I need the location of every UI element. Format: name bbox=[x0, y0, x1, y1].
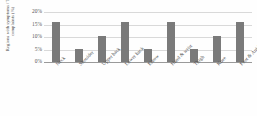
bar-foot-ankle bbox=[236, 22, 244, 62]
bar-chart-figure: Regions with symptoms / Total complaints… bbox=[0, 0, 257, 116]
bar-slot bbox=[206, 12, 229, 62]
y-tick-5: 5% bbox=[22, 47, 42, 52]
y-tick-15: 15% bbox=[22, 22, 42, 27]
bar-neck bbox=[52, 22, 60, 62]
bar-lower-back bbox=[121, 22, 129, 62]
y-tick-20: 20% bbox=[22, 9, 42, 14]
x-axis-tick-labels: Neck Shoulder Upper back Lower back Elbo… bbox=[44, 63, 252, 115]
plot-area bbox=[44, 12, 252, 63]
y-axis-tick-labels: 20% 15% 10% 5% 0% bbox=[22, 12, 42, 62]
y-axis-label: Regions with symptoms / Total complaints… bbox=[5, 0, 16, 57]
bar-slot bbox=[44, 12, 67, 62]
bar-hand-wrist bbox=[167, 22, 175, 62]
y-tick-0: 0% bbox=[22, 59, 42, 64]
bar-series bbox=[44, 12, 252, 62]
y-tick-10: 10% bbox=[22, 34, 42, 39]
